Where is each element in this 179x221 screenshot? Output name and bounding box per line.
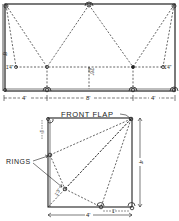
top-left-small-label: 1'	[39, 130, 44, 134]
right-height-label: 4'	[138, 160, 144, 164]
ring-points	[4, 2, 179, 92]
bottom-width-label: 4'	[86, 212, 90, 218]
diagonal-label: 1'3"	[54, 187, 62, 196]
bottom-dim-left: 4'	[22, 95, 26, 101]
top-plan-outline	[5, 4, 175, 91]
left-height-label: 8'	[2, 52, 8, 56]
front-flap	[33, 114, 142, 217]
ring-icon	[132, 66, 135, 69]
top-plan	[3, 2, 178, 101]
tent-pattern-diagram: 8' 1'4" 1'4" 2'6" 4' 8' 4' FRONT FLAP	[0, 0, 179, 221]
bottom-dim-center: 8'	[86, 95, 90, 101]
bottom-small-label: 1'	[112, 209, 116, 214]
rings-label: RINGS	[6, 158, 31, 165]
bottom-dim-right: 4'	[151, 95, 155, 101]
ridge-lines	[6, 5, 174, 89]
center-vertical-label: 2'6"	[89, 68, 94, 76]
left-point-label: 1'4"	[6, 65, 14, 70]
flap-fan-lines	[48, 119, 131, 207]
right-point-label: 1'4"	[164, 65, 172, 70]
